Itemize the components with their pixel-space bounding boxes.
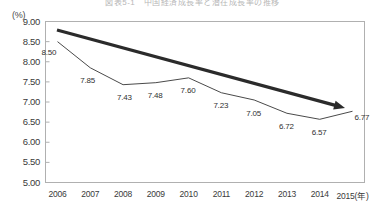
chart-screenshot: 図表5-1 中国経済成長率と潜在成長率の推移 (%) 9.008.508.007… xyxy=(0,0,385,208)
y-axis-tick-label: 8.50 xyxy=(6,36,40,47)
data-point-label: 6.72 xyxy=(279,122,294,131)
data-point-label: 7.60 xyxy=(181,86,196,95)
y-axis-tick-label: 9.00 xyxy=(6,16,40,27)
data-point-label: 7.85 xyxy=(80,76,95,85)
data-point-label: 7.43 xyxy=(117,93,132,102)
plot-area xyxy=(0,0,385,208)
data-point-label: 8.50 xyxy=(42,48,57,57)
y-axis-tick-label: 7.00 xyxy=(6,96,40,107)
y-axis-tick-label: 5.50 xyxy=(6,156,40,167)
data-point-label: 7.48 xyxy=(148,91,163,100)
data-point-label: 6.57 xyxy=(312,128,327,137)
data-point-label: 7.05 xyxy=(246,109,261,118)
data-point-label: 6.77 xyxy=(355,113,370,122)
y-axis-tick-label: 6.00 xyxy=(6,136,40,147)
y-axis-tick-label: 5.00 xyxy=(6,177,40,188)
data-point-label: 7.23 xyxy=(213,101,228,110)
x-axis-tick-label: 2015(年) xyxy=(327,189,379,201)
plot-frame xyxy=(46,22,365,183)
y-axis-tick-label: 6.50 xyxy=(6,116,40,127)
y-axis-tick-label: 8.00 xyxy=(6,56,40,67)
y-axis-tick-label: 7.50 xyxy=(6,76,40,87)
